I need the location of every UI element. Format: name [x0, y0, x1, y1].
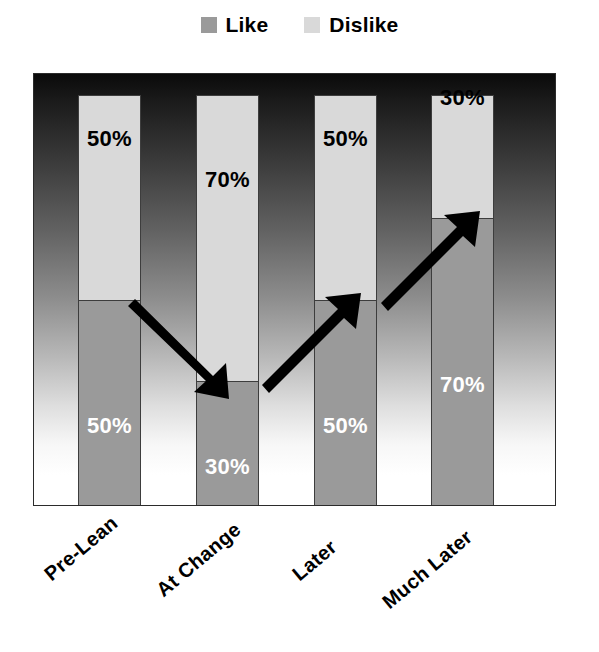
x-axis-label-at-change: At Change	[152, 518, 245, 602]
legend-swatch-icon	[304, 17, 320, 33]
bar-much-later: 30% 70%	[431, 95, 494, 506]
bar-segment-like: 30%	[197, 382, 258, 505]
x-axis-label-later: Later	[288, 536, 341, 586]
bar-value-dislike: 30%	[440, 87, 485, 109]
bar-segment-dislike: 30%	[432, 96, 493, 219]
bar-segment-dislike: 50%	[79, 96, 140, 301]
legend-swatch-icon	[201, 17, 217, 33]
x-axis-labels: Pre-Lean At Change Later Much Later	[0, 506, 599, 652]
bar-pre-lean: 50% 50%	[78, 95, 141, 506]
legend-label-dislike: Dislike	[329, 14, 398, 35]
legend-label-like: Like	[226, 14, 269, 35]
bar-value-dislike: 50%	[87, 128, 132, 150]
x-axis-label-much-later: Much Later	[378, 525, 477, 613]
bar-at-change: 70% 30%	[196, 95, 259, 506]
legend-item-dislike: Dislike	[304, 14, 398, 35]
chart-legend: Like Dislike	[0, 14, 599, 35]
bar-value-dislike: 70%	[205, 169, 250, 191]
bar-value-like: 30%	[205, 456, 250, 478]
legend-item-like: Like	[201, 14, 269, 35]
bar-segment-dislike: 70%	[197, 96, 258, 382]
bar-value-like: 70%	[440, 374, 485, 396]
bar-segment-like: 50%	[79, 301, 140, 506]
bar-value-like: 50%	[323, 415, 368, 437]
bar-segment-dislike: 50%	[315, 96, 376, 301]
bar-segment-like: 70%	[432, 219, 493, 505]
plot-area: 50% 50% 70% 30% 50% 50%	[33, 73, 556, 506]
bar-later: 50% 50%	[314, 95, 377, 506]
bar-value-dislike: 50%	[323, 128, 368, 150]
x-axis-label-pre-lean: Pre-Lean	[40, 511, 122, 585]
bar-value-like: 50%	[87, 415, 132, 437]
stacked-bar-chart: Like Dislike 50% 50% 70% 30%	[0, 0, 599, 652]
bar-segment-like: 50%	[315, 301, 376, 506]
